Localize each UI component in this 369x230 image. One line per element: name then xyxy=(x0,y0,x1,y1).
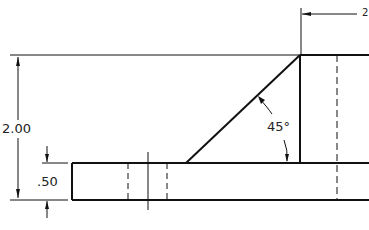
dimension-overall-height: 2.00 xyxy=(2,122,31,135)
dimension-base-thickness: .50 xyxy=(37,175,58,188)
arrowhead xyxy=(258,96,265,104)
arrowhead xyxy=(45,154,49,162)
arrowhead xyxy=(45,201,49,209)
arrowhead xyxy=(16,57,20,66)
technical-drawing xyxy=(0,0,369,230)
arrowhead xyxy=(285,154,289,162)
dimension-angle: 45° xyxy=(267,120,290,133)
arrowhead xyxy=(16,189,20,198)
arrowhead xyxy=(302,12,311,16)
dimension-top-partial: 2 xyxy=(362,8,368,18)
gusset-diagonal xyxy=(186,55,300,163)
